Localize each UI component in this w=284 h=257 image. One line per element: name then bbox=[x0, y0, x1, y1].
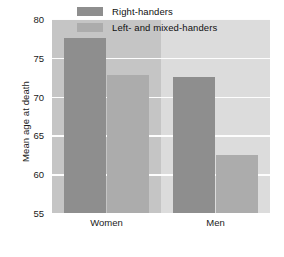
bar bbox=[216, 155, 259, 213]
plot-area bbox=[52, 19, 270, 213]
y-axis-tick-label: 55 bbox=[33, 208, 44, 219]
chart-legend: Right-handersLeft- and mixed-handers bbox=[77, 6, 217, 33]
bar bbox=[173, 77, 216, 213]
bar bbox=[64, 38, 107, 213]
x-axis-tick-label: Men bbox=[206, 217, 224, 228]
legend-swatch-icon bbox=[77, 23, 103, 32]
x-axis-tick-label: Women bbox=[90, 217, 123, 228]
y-axis-tick-label: 65 bbox=[33, 130, 44, 141]
y-axis-tick-labels: 556065707580 bbox=[0, 0, 48, 257]
y-axis-tick-label: 60 bbox=[33, 169, 44, 180]
y-axis-tick-label: 70 bbox=[33, 91, 44, 102]
legend-swatch-icon bbox=[77, 7, 103, 16]
legend-label: Right-handers bbox=[112, 6, 173, 17]
legend-item: Right-handers bbox=[77, 6, 217, 17]
bar-chart-figure: Mean age at death 556065707580 Right-han… bbox=[0, 0, 284, 257]
legend-label: Left- and mixed-handers bbox=[112, 22, 217, 33]
bar bbox=[107, 75, 150, 213]
legend-item: Left- and mixed-handers bbox=[77, 22, 217, 33]
y-axis-tick-label: 75 bbox=[33, 52, 44, 63]
x-axis-tick-labels: WomenMen bbox=[52, 217, 270, 237]
y-axis-tick-label: 80 bbox=[33, 14, 44, 25]
